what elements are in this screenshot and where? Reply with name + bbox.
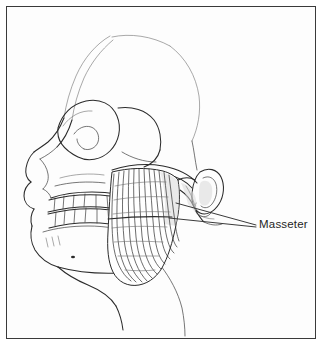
frontal-bone xyxy=(34,118,72,159)
orbit xyxy=(58,100,120,159)
anatomy-illustration xyxy=(0,0,324,347)
figure-root: Masseter xyxy=(0,0,324,347)
temporal-plane xyxy=(118,46,200,167)
mental-foramen xyxy=(71,256,75,259)
nasal-profile xyxy=(24,152,51,226)
label-masseter: Masseter xyxy=(259,218,308,230)
leader-lines xyxy=(169,203,256,227)
cranium-outline xyxy=(64,35,170,120)
external-ear xyxy=(192,169,224,216)
masseter-muscle xyxy=(108,168,180,285)
